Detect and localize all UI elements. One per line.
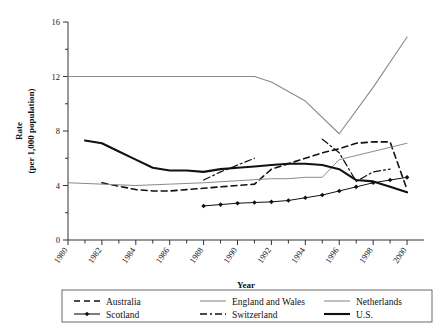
x-tick-label: 1990 bbox=[221, 245, 239, 265]
x-tick-label: 1982 bbox=[86, 245, 104, 265]
series-marker bbox=[201, 204, 206, 209]
legend-item-switzerland[interactable]: Switzerland bbox=[200, 310, 278, 320]
x-tick-label: 1998 bbox=[357, 245, 375, 265]
series-marker bbox=[286, 198, 291, 203]
series-marker bbox=[269, 200, 274, 205]
legend-label: Australia bbox=[106, 297, 142, 307]
chart-legend: AustraliaEngland and WalesNetherlandsSco… bbox=[62, 290, 432, 322]
line-chart-svg: 0481216198019821984198619881990199219941… bbox=[0, 0, 440, 330]
y-tick-label: 0 bbox=[56, 235, 60, 245]
chart-figure: 0481216198019821984198619881990199219941… bbox=[0, 0, 440, 330]
legend-marker bbox=[85, 312, 90, 317]
x-tick-label: 1984 bbox=[120, 245, 138, 265]
y-tick-label: 12 bbox=[52, 72, 61, 82]
x-tick-label: 1994 bbox=[289, 245, 307, 265]
x-tick-label: 1988 bbox=[187, 245, 205, 265]
series-marker bbox=[388, 178, 393, 183]
series-marker bbox=[354, 185, 359, 190]
legend-item-australia[interactable]: Australia bbox=[74, 297, 142, 307]
x-tick-label: 1980 bbox=[52, 245, 70, 265]
series-layer bbox=[68, 37, 409, 208]
series-marker bbox=[218, 202, 223, 207]
x-tick-label: 1986 bbox=[153, 245, 171, 265]
legend-label: Scotland bbox=[106, 310, 139, 320]
legend-label: U.S. bbox=[356, 310, 373, 320]
x-axis-title: Year bbox=[237, 280, 255, 290]
legend-item-netherlands[interactable]: Netherlands bbox=[324, 297, 402, 307]
y-tick-label: 16 bbox=[52, 17, 61, 27]
y-axis-title-line1: Rate bbox=[14, 122, 24, 140]
y-axis-title-line2: (per 1,000 population) bbox=[26, 88, 36, 173]
series-line-netherlands bbox=[68, 37, 407, 134]
y-tick-label: 4 bbox=[56, 181, 61, 191]
x-tick-label: 2000 bbox=[391, 245, 409, 265]
y-tick-label: 8 bbox=[56, 126, 60, 136]
series-line-switzerland-segment2 bbox=[322, 139, 390, 181]
series-marker bbox=[252, 200, 257, 205]
legend-item-u-s-[interactable]: U.S. bbox=[324, 310, 373, 320]
x-tick-label: 1992 bbox=[255, 245, 273, 265]
series-marker bbox=[235, 201, 240, 206]
legend-item-scotland[interactable]: Scotland bbox=[74, 310, 139, 320]
series-marker bbox=[337, 189, 342, 194]
legend-label: England and Wales bbox=[232, 297, 305, 307]
series-marker bbox=[303, 195, 308, 200]
axes-layer: 0481216198019821984198619881990199219941… bbox=[52, 17, 425, 265]
series-marker bbox=[405, 175, 410, 180]
x-tick-label: 1996 bbox=[323, 245, 341, 265]
series-marker bbox=[320, 193, 325, 198]
legend-label: Netherlands bbox=[356, 297, 402, 307]
legend-label: Switzerland bbox=[232, 310, 278, 320]
legend-item-england-and-wales[interactable]: England and Wales bbox=[200, 297, 305, 307]
